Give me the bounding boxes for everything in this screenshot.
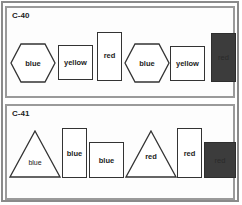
shape-label: red	[145, 152, 157, 161]
hexagon-shape: blue	[124, 43, 170, 83]
panel-title: C-41	[12, 109, 29, 118]
shape-label: yellow	[176, 59, 199, 68]
tall-rectangle-shape: blue	[62, 128, 87, 178]
filled-square-shape: red	[204, 142, 236, 178]
panel-title: C-40	[12, 11, 29, 20]
triangle-shape: blue	[9, 130, 61, 178]
panel-c40: C-40 blue yellow red blue yellow red	[5, 6, 235, 98]
shape-label: blue	[28, 159, 41, 166]
panel-c41: C-41 blue blue blue red red red	[5, 104, 235, 200]
square-shape: yellow	[58, 45, 93, 80]
shape-label: red	[184, 149, 196, 158]
hexagon-shape: blue	[10, 43, 56, 83]
shape-label: blue	[25, 59, 40, 68]
shape-label: red	[215, 156, 226, 165]
shape-label: red	[104, 51, 116, 60]
shape-label: blue	[99, 156, 114, 165]
filled-tall-rectangle-shape: red	[211, 33, 236, 82]
shape-label: yellow	[64, 58, 87, 67]
triangle-shape: red	[125, 130, 177, 178]
square-shape: blue	[89, 142, 124, 178]
shape-label: blue	[67, 149, 82, 158]
tall-rectangle-shape: red	[97, 32, 122, 81]
square-shape: yellow	[170, 46, 205, 81]
tall-rectangle-shape: red	[177, 128, 202, 178]
shape-label: blue	[139, 59, 154, 68]
shape-label: red	[218, 53, 229, 62]
